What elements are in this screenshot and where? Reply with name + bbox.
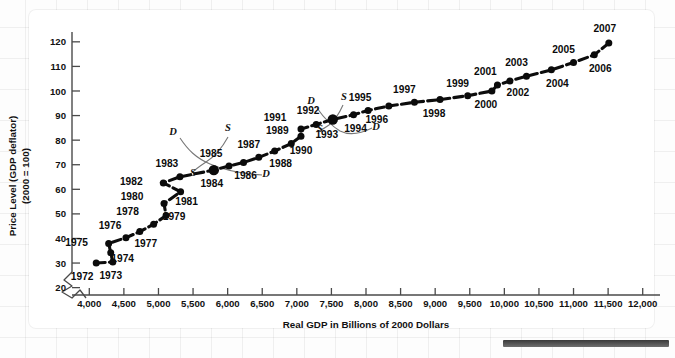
data-point-label: 1990: [290, 145, 313, 156]
data-point-label: 1980: [121, 191, 144, 202]
y-axis-ticks: 2030405060708090100110120: [50, 36, 80, 293]
demand-curve-label: D: [306, 95, 315, 106]
y-tick-label: 80: [55, 135, 66, 146]
data-point: [385, 102, 392, 109]
data-point-label: 1984: [200, 178, 223, 189]
data-point-label: 1979: [163, 211, 186, 222]
data-point: [494, 82, 501, 89]
data-point: [506, 77, 513, 84]
x-tick-label: 6,000: [216, 298, 240, 309]
data-point: [464, 92, 471, 99]
data-point-label: 1975: [65, 237, 88, 248]
data-point: [570, 59, 577, 66]
data-point: [160, 179, 167, 186]
data-point: [297, 126, 304, 133]
data-point: [105, 240, 112, 247]
data-series-layer: 1972197319741975197619771978197919801981…: [65, 23, 616, 282]
data-point-label: 1982: [120, 176, 143, 187]
data-point: [93, 260, 100, 267]
y-tick-label: 110: [51, 61, 66, 72]
data-point-label: 2005: [552, 44, 575, 55]
demand-curve-label: D: [261, 168, 270, 179]
data-point: [523, 73, 530, 80]
data-point: [365, 107, 372, 114]
data-point: [548, 66, 555, 73]
data-point-label: 2004: [546, 78, 569, 89]
data-point: [177, 188, 184, 195]
axes: [62, 32, 660, 298]
x-tick-label: 5,500: [181, 298, 205, 309]
x-tick-label: 4,000: [77, 298, 101, 309]
series-line: [96, 43, 609, 263]
data-point: [271, 147, 278, 154]
data-point: [350, 111, 357, 118]
supply-curve-label: S: [317, 123, 323, 134]
data-point: [411, 99, 418, 106]
x-tick-label: 6,500: [250, 298, 274, 309]
data-point: [591, 51, 598, 58]
data-point: [176, 173, 183, 180]
data-point-label: 1987: [237, 139, 260, 150]
x-tick-label: 11,000: [559, 298, 588, 309]
x-tick-label: 8,000: [354, 298, 378, 309]
data-point-label: 1994: [344, 123, 367, 134]
data-point-label: 1974: [111, 253, 134, 264]
x-tick-label: 7,500: [319, 298, 343, 309]
x-axis-ticks: 4,0004,5005,0005,5006,0006,5007,0007,500…: [77, 288, 657, 309]
x-tick-label: 10,000: [490, 298, 519, 309]
data-point-label: 2006: [589, 63, 612, 74]
data-point-label: 2002: [507, 87, 530, 98]
data-point-label: 1986: [234, 170, 257, 181]
data-point-label: 1985: [200, 148, 223, 159]
data-point: [255, 154, 262, 161]
data-point: [161, 200, 168, 207]
data-point-label: 1989: [266, 125, 289, 136]
supply-curve-label: S: [341, 91, 347, 102]
supply-curve-label: S: [225, 122, 231, 133]
chart-canvas: 2030405060708090100110120 4,0004,5005,00…: [0, 0, 675, 358]
x-tick-label: 8,500: [389, 298, 413, 309]
data-point-label: 1991: [264, 112, 287, 123]
data-point-equilibrium: [209, 165, 219, 175]
data-point: [226, 162, 233, 169]
data-point-label: 1983: [156, 158, 179, 169]
data-point-label: 1973: [99, 270, 122, 281]
data-point-equilibrium: [328, 114, 338, 124]
y-axis-title-line2: (2000 = 100): [20, 148, 31, 204]
data-point-label: 1997: [393, 84, 416, 95]
y-axis-title-line1: Price Level (GDP deflator): [7, 116, 18, 237]
data-point: [297, 133, 304, 140]
data-point: [437, 96, 444, 103]
y-tick-label: 70: [55, 159, 66, 170]
x-tick-label: 12,000: [628, 298, 657, 309]
y-tick-label: 50: [55, 208, 66, 219]
data-point: [122, 234, 129, 241]
data-point-label: 1988: [269, 158, 292, 169]
data-point-label: 2003: [505, 57, 528, 68]
x-tick-label: 9,000: [423, 298, 447, 309]
y-tick-label: 60: [55, 184, 66, 195]
x-axis-title: Real GDP in Billions of 2000 Dollars: [283, 319, 450, 330]
data-point-label: 1999: [446, 78, 469, 89]
data-point: [136, 228, 143, 235]
data-point: [605, 40, 612, 47]
data-point-label: 1972: [71, 271, 94, 282]
bottom-scrollbar[interactable]: [503, 340, 669, 347]
data-point: [240, 159, 247, 166]
data-point-label: 1995: [349, 92, 372, 103]
y-tick-label: 20: [55, 282, 66, 293]
data-point-label: 1981: [175, 196, 198, 207]
data-point: [488, 87, 495, 94]
data-point-label: 1977: [134, 238, 157, 249]
data-point: [150, 221, 157, 228]
x-tick-label: 9,500: [458, 298, 482, 309]
data-point-label: 1976: [99, 220, 122, 231]
y-tick-label: 30: [55, 258, 66, 269]
y-axis-title: Price Level (GDP deflator) (2000 = 100): [7, 116, 31, 237]
data-point-label: 2007: [593, 23, 616, 34]
demand-curve-label: D: [168, 126, 177, 137]
y-tick-label: 90: [55, 110, 66, 121]
x-tick-label: 7,000: [285, 298, 309, 309]
data-point-label: 1998: [423, 108, 446, 119]
x-tick-label: 11,500: [594, 298, 623, 309]
